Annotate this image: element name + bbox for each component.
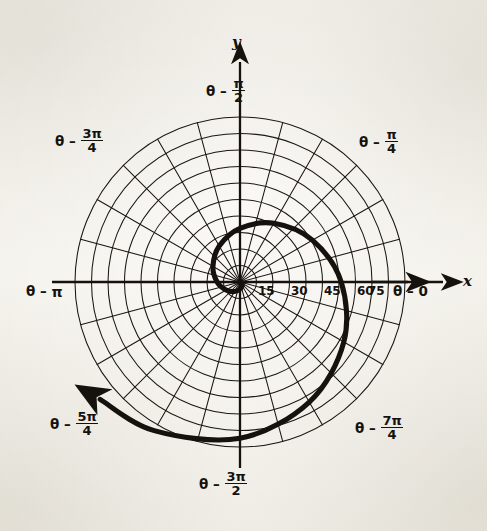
radial-tick-75: 75 bbox=[368, 284, 385, 298]
angle-label-fraction: π 2 bbox=[232, 77, 244, 105]
radial-tick-15: 15 bbox=[258, 284, 275, 298]
fraction-numerator: π bbox=[385, 128, 397, 141]
fraction-denominator: 4 bbox=[76, 423, 97, 437]
fraction-denominator: 2 bbox=[232, 90, 244, 104]
angle-label-theta-pi: θ – π bbox=[26, 285, 63, 299]
spiral-curve bbox=[100, 223, 347, 440]
angle-label-fraction: 5π 4 bbox=[76, 410, 97, 438]
angle-label-value: 0 bbox=[418, 285, 427, 299]
angle-label-fraction: 7π 4 bbox=[381, 414, 402, 442]
radial-tick-30: 30 bbox=[291, 284, 308, 298]
fraction-denominator: 4 bbox=[385, 141, 397, 155]
fraction-denominator: 2 bbox=[225, 483, 246, 497]
polar-plot-figure: x y 15 30 45 60 75 θ – 0 θ – π 4 θ – π 2… bbox=[0, 0, 487, 531]
angle-label-lead: θ – bbox=[359, 136, 380, 150]
fraction-numerator: 7π bbox=[381, 414, 402, 427]
angle-label-lead: θ – bbox=[55, 135, 76, 149]
fraction-numerator: π bbox=[232, 77, 244, 90]
angle-label-fraction: π 4 bbox=[385, 128, 397, 156]
angle-label-lead: θ – bbox=[393, 285, 414, 299]
angle-label-value: π bbox=[51, 285, 62, 299]
angle-label-lead: θ – bbox=[355, 422, 376, 436]
angle-label-fraction: 3π 2 bbox=[225, 470, 246, 498]
y-axis-label: y bbox=[232, 33, 241, 51]
angle-label-lead: θ – bbox=[26, 285, 47, 299]
fraction-numerator: 5π bbox=[76, 410, 97, 423]
angle-label-theta-pi-4: θ – π 4 bbox=[359, 129, 398, 157]
angle-label-theta-7pi-4: θ – 7π 4 bbox=[355, 415, 403, 443]
angle-label-theta-pi-2: θ – π 2 bbox=[206, 78, 245, 106]
angle-label-lead: θ – bbox=[206, 85, 227, 99]
x-axis-label: x bbox=[463, 272, 472, 290]
angle-label-theta-3pi-2: θ – 3π 2 bbox=[199, 471, 247, 499]
radial-tick-45: 45 bbox=[324, 284, 341, 298]
angle-label-fraction: 3π 4 bbox=[81, 127, 102, 155]
angle-label-theta-0: θ – 0 bbox=[393, 285, 428, 299]
fraction-denominator: 4 bbox=[81, 140, 102, 154]
angle-label-lead: θ – bbox=[50, 418, 71, 432]
fraction-denominator: 4 bbox=[381, 427, 402, 441]
angle-label-lead: θ – bbox=[199, 478, 220, 492]
fraction-numerator: 3π bbox=[81, 127, 102, 140]
angle-label-theta-5pi-4: θ – 5π 4 bbox=[50, 411, 98, 439]
fraction-numerator: 3π bbox=[225, 470, 246, 483]
angle-label-theta-3pi-4: θ – 3π 4 bbox=[55, 128, 103, 156]
